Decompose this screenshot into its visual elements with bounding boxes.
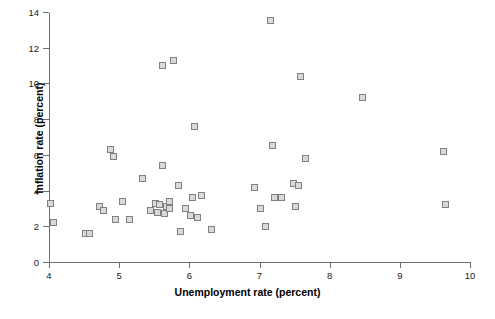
x-tick-label: 8 <box>327 270 332 281</box>
data-point <box>189 194 196 201</box>
x-tick-label: 4 <box>46 270 51 281</box>
data-point <box>139 175 146 182</box>
x-tick-label: 5 <box>117 270 122 281</box>
data-point <box>154 209 161 216</box>
data-point <box>302 155 309 162</box>
data-point <box>175 182 182 189</box>
data-point <box>110 153 117 160</box>
x-axis-title: Unemployment rate (percent) <box>0 286 495 298</box>
data-point <box>257 205 264 212</box>
data-point <box>100 207 107 214</box>
data-point <box>278 194 285 201</box>
data-point <box>297 73 304 80</box>
data-point <box>267 17 274 24</box>
x-tick <box>330 263 331 268</box>
data-point <box>107 146 114 153</box>
x-tick-label: 7 <box>257 270 262 281</box>
data-point <box>442 201 449 208</box>
x-tick <box>49 263 50 268</box>
data-point <box>112 216 119 223</box>
data-point <box>166 205 173 212</box>
plot-area <box>49 13 470 263</box>
data-point <box>147 207 154 214</box>
y-axis-title-wrapper: Inflation rate (percent) <box>14 0 34 276</box>
x-tick-label: 6 <box>187 270 192 281</box>
data-point <box>440 148 447 155</box>
data-point <box>50 219 57 226</box>
x-tick <box>400 263 401 268</box>
data-point <box>170 57 177 64</box>
data-point <box>86 230 93 237</box>
x-tick <box>260 263 261 268</box>
x-tick-label: 9 <box>397 270 402 281</box>
x-tick <box>119 263 120 268</box>
data-point <box>191 123 198 130</box>
data-point <box>159 62 166 69</box>
data-point <box>269 142 276 149</box>
data-point <box>295 182 302 189</box>
y-tick-label: 0 <box>34 257 39 268</box>
data-point <box>119 198 126 205</box>
data-point <box>198 192 205 199</box>
data-point <box>166 198 173 205</box>
x-tick <box>470 263 471 268</box>
data-point <box>292 203 299 210</box>
data-point <box>182 205 189 212</box>
x-tick <box>189 263 190 268</box>
data-point <box>194 214 201 221</box>
data-point <box>156 201 163 208</box>
data-point <box>271 194 278 201</box>
data-point <box>126 216 133 223</box>
data-point <box>262 223 269 230</box>
y-axis-title: Inflation rate (percent) <box>33 58 45 218</box>
data-point <box>359 94 366 101</box>
data-point <box>159 162 166 169</box>
data-point <box>187 212 194 219</box>
data-point <box>47 200 54 207</box>
data-point <box>208 226 215 233</box>
x-tick-label: 10 <box>465 270 476 281</box>
y-tick-label: 2 <box>34 221 39 232</box>
data-point <box>251 184 258 191</box>
scatter-chart: 45678910 02468101214 Unemployment rate (… <box>0 0 495 319</box>
data-point <box>177 228 184 235</box>
